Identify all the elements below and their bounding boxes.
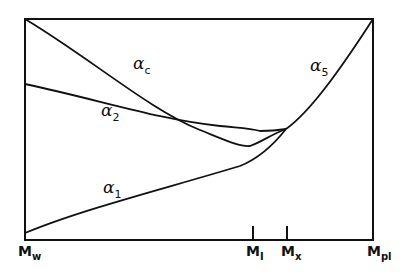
label-alpha-1: α1 — [103, 177, 121, 197]
curve-alpha-c — [25, 19, 286, 146]
xtick-label-mx: Mx — [281, 243, 301, 259]
xtick-label-mpl: Mpl — [367, 243, 392, 259]
label-alpha-c: αc — [133, 53, 151, 73]
curve-alpha-1 — [25, 129, 286, 233]
xtick-label-mw: Mw — [18, 243, 41, 259]
curve-alpha-5 — [286, 19, 373, 129]
label-alpha-2: α2 — [101, 100, 119, 120]
chart-canvas — [0, 0, 415, 278]
xtick-label-mi: MI — [246, 243, 264, 259]
label-alpha-5: α5 — [310, 55, 328, 75]
